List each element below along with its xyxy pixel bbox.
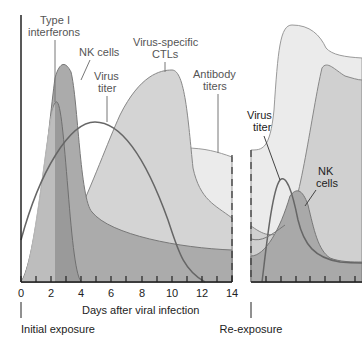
interferons-left-flank bbox=[21, 104, 55, 282]
label-antibody-2: titers bbox=[203, 80, 227, 92]
label-ctl-2: CTLs bbox=[152, 48, 179, 60]
initial-exposure-panel: 0 2 4 6 8 10 12 14 Days after viral infe… bbox=[18, 14, 238, 335]
label-virus-1: Virus bbox=[94, 70, 119, 82]
label-virus-2: titer bbox=[98, 82, 117, 94]
tick-2: 2 bbox=[48, 287, 54, 299]
label-antibody-1: Antibody bbox=[193, 68, 236, 80]
tick-4: 4 bbox=[78, 287, 84, 299]
x-axis-label: Days after viral infection bbox=[82, 304, 199, 316]
re-exposure-label: Re-exposure bbox=[220, 323, 283, 335]
initial-exposure-label: Initial exposure bbox=[21, 323, 95, 335]
immune-response-diagram: 0 2 4 6 8 10 12 14 Days after viral infe… bbox=[0, 0, 362, 342]
re-exposure-panel: Virus titer NK cells Re-exposure bbox=[220, 25, 362, 335]
label-nk-cells: NK cells bbox=[79, 46, 120, 58]
tick-10: 10 bbox=[166, 287, 178, 299]
re-label-virus-1: Virus bbox=[247, 109, 272, 121]
label-ctl-1: Virus-specific bbox=[133, 36, 199, 48]
tick-6: 6 bbox=[108, 287, 114, 299]
re-label-nk-1: NK bbox=[318, 165, 334, 177]
re-label-nk-2: cells bbox=[316, 177, 339, 189]
tick-12: 12 bbox=[196, 287, 208, 299]
tick-14: 14 bbox=[226, 287, 238, 299]
re-label-virus-2: titer bbox=[253, 121, 272, 133]
label-interferons-1: Type I bbox=[40, 14, 70, 26]
tick-8: 8 bbox=[139, 287, 145, 299]
tick-0: 0 bbox=[18, 287, 24, 299]
label-interferons-2: interferons bbox=[28, 26, 80, 38]
leader-nk-cells bbox=[81, 60, 90, 80]
